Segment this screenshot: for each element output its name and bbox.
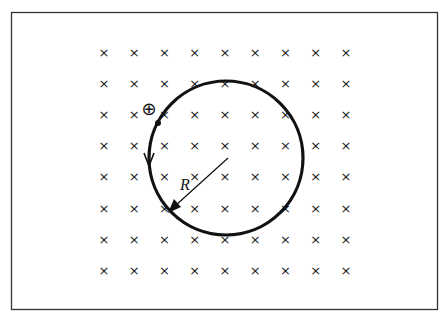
field-cross-icon: × [129,138,140,153]
field-cross-icon: × [250,138,261,153]
field-cross-icon: × [341,263,352,278]
field-cross-icon: × [99,232,110,247]
field-cross-icon: × [250,201,261,216]
field-cross-icon: × [159,138,170,153]
field-cross-icon: × [99,76,110,91]
field-cross-icon: × [341,107,352,122]
field-cross-icon: × [189,169,200,184]
particle-charge-symbol: ⊕ [141,98,156,119]
field-cross-icon: × [159,76,170,91]
field-cross-icon: × [220,138,231,153]
field-cross-icon: × [189,138,200,153]
field-cross-icon: × [341,201,352,216]
field-cross-icon: × [99,45,110,60]
field-cross-icon: × [310,107,321,122]
field-cross-icon: × [280,169,291,184]
field-cross-icon: × [189,232,200,247]
field-cross-icon: × [99,138,110,153]
field-cross-icon: × [189,201,200,216]
field-cross-icon: × [250,45,261,60]
field-cross-icon: × [341,138,352,153]
field-cross-icon: × [159,169,170,184]
field-cross-icon: × [159,263,170,278]
field-cross-icon: × [129,201,140,216]
field-cross-icon: × [250,169,261,184]
field-cross-icon: × [310,201,321,216]
field-cross-icon: × [129,76,140,91]
field-cross-icon: × [129,45,140,60]
field-cross-icon: × [250,263,261,278]
field-cross-icon: × [129,107,140,122]
field-cross-icon: × [129,169,140,184]
field-cross-icon: × [99,169,110,184]
field-cross-icon: × [220,169,231,184]
field-cross-icon: × [310,263,321,278]
field-cross-icon: × [310,169,321,184]
field-cross-icon: × [99,201,110,216]
field-cross-icon: × [159,232,170,247]
field-cross-icon: × [189,263,200,278]
particle-dot [155,120,161,126]
field-cross-icon: × [159,45,170,60]
field-cross-icon: × [341,232,352,247]
field-cross-icon: × [280,232,291,247]
field-cross-icon: × [280,45,291,60]
field-cross-icon: × [129,263,140,278]
field-cross-icon: × [280,138,291,153]
field-cross-icon: × [341,76,352,91]
field-cross-icon: × [250,232,261,247]
field-cross-icon: × [310,232,321,247]
radius-label: R [179,176,190,193]
field-cross-icon: × [310,76,321,91]
field-cross-icon: × [129,232,140,247]
field-cross-icon: × [341,45,352,60]
field-cross-icon: × [341,169,352,184]
field-cross-icon: × [189,107,200,122]
field-cross-icon: × [99,107,110,122]
field-cross-icon: × [250,107,261,122]
field-cross-icon: × [189,45,200,60]
field-cross-icon: × [99,263,110,278]
field-cross-icon: × [220,107,231,122]
field-cross-icon: × [220,76,231,91]
field-cross-icon: × [310,45,321,60]
field-cross-icon: × [280,76,291,91]
field-cross-icon: × [220,45,231,60]
field-cross-icon: × [310,138,321,153]
physics-diagram: ××××××××××××××××××××××××××××××××××××××××… [0,0,448,320]
field-cross-icon: × [220,263,231,278]
field-cross-icon: × [220,201,231,216]
field-cross-icon: × [280,263,291,278]
